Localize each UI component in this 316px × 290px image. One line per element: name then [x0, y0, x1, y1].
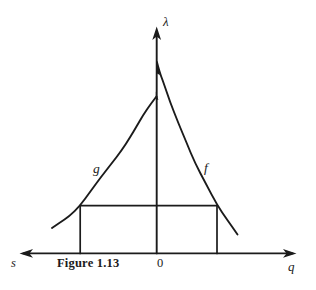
- curve-f-label: f: [204, 161, 208, 175]
- curve-g: [52, 97, 156, 229]
- lambda-axis-label: λ: [163, 15, 169, 28]
- figure-caption: Figure 1.13: [57, 257, 119, 270]
- q-axis-label: q: [288, 260, 295, 273]
- figure-canvas: [0, 0, 316, 290]
- origin-label: 0: [157, 257, 163, 270]
- s-axis-label: s: [11, 257, 16, 270]
- figure-1-13: λ s q 0 g f Figure 1.13: [0, 0, 316, 290]
- curve-g-label: g: [93, 162, 100, 176]
- curve-f: [157, 62, 238, 235]
